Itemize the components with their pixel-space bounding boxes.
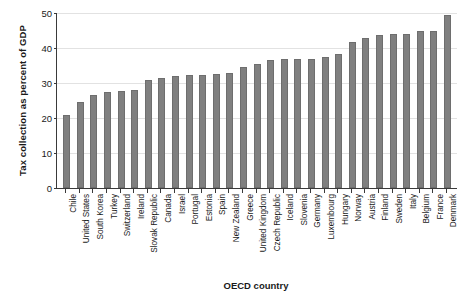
x-label-wrap: Austria bbox=[358, 194, 372, 272]
x-tick-mark bbox=[147, 189, 148, 193]
x-label-wrap: Belgium bbox=[412, 194, 426, 272]
bar-item bbox=[305, 13, 319, 188]
bar-item bbox=[210, 13, 224, 188]
bar bbox=[430, 31, 437, 188]
bar bbox=[403, 34, 410, 188]
bar bbox=[254, 64, 261, 188]
x-tick-wrap bbox=[344, 189, 358, 193]
x-label-wrap: Norway bbox=[344, 194, 358, 272]
x-label-wrap: Sweden bbox=[385, 194, 399, 272]
bar-item bbox=[250, 13, 264, 188]
x-tick-mark bbox=[174, 189, 175, 193]
x-tick-wrap bbox=[317, 189, 331, 193]
bar bbox=[444, 15, 451, 188]
x-label-wrap: Luxembourg bbox=[317, 194, 331, 272]
x-tick-mark bbox=[283, 189, 284, 193]
bar-item bbox=[386, 13, 400, 188]
bar-item bbox=[237, 13, 251, 188]
bar-item bbox=[373, 13, 387, 188]
x-tick-mark bbox=[201, 189, 202, 193]
bar bbox=[240, 67, 247, 188]
x-tick-mark bbox=[446, 189, 447, 193]
x-tick-mark bbox=[310, 189, 311, 193]
x-tick-mark bbox=[378, 189, 379, 193]
x-tick-wrap bbox=[181, 189, 195, 193]
bar-item bbox=[155, 13, 169, 188]
bar-item bbox=[264, 13, 278, 188]
bar-item bbox=[278, 13, 292, 188]
bar-item bbox=[332, 13, 346, 188]
x-tick-wrap bbox=[290, 189, 304, 193]
bar-item bbox=[400, 13, 414, 188]
x-tick-mark bbox=[351, 189, 352, 193]
x-label-wrap: France bbox=[426, 194, 440, 272]
y-tick-label: 0 bbox=[18, 183, 57, 194]
x-tick-wrap bbox=[113, 189, 127, 193]
x-label-wrap: Greece bbox=[236, 194, 250, 272]
x-tick-wrap bbox=[263, 189, 277, 193]
bar bbox=[335, 54, 342, 188]
x-label-wrap: Slovenia bbox=[290, 194, 304, 272]
x-label-wrap: Germany bbox=[304, 194, 318, 272]
bar-item bbox=[223, 13, 237, 188]
x-label-wrap: Slovak Republic bbox=[141, 194, 155, 272]
x-tick-wrap bbox=[209, 189, 223, 193]
x-tick-wrap bbox=[168, 189, 182, 193]
x-tick-wrap bbox=[127, 189, 141, 193]
bar-item bbox=[318, 13, 332, 188]
x-label-wrap: United States bbox=[73, 194, 87, 272]
x-label-wrap: Canada bbox=[154, 194, 168, 272]
bar-item bbox=[441, 13, 455, 188]
x-tick-mark bbox=[160, 189, 161, 193]
bar bbox=[104, 92, 111, 188]
x-tick-wrap bbox=[154, 189, 168, 193]
x-tick-label: Denmark bbox=[450, 194, 458, 227]
x-tick-mark bbox=[65, 189, 66, 193]
x-tick-wrap bbox=[236, 189, 250, 193]
x-tick-mark bbox=[337, 189, 338, 193]
x-tick-wrap bbox=[73, 189, 87, 193]
x-tick-mark bbox=[228, 189, 229, 193]
bar bbox=[362, 38, 369, 189]
y-tick-label: 10 bbox=[18, 148, 57, 159]
bar bbox=[322, 57, 329, 188]
y-tick-label: 30 bbox=[18, 78, 57, 89]
bar bbox=[281, 59, 288, 188]
x-tick-wrap bbox=[195, 189, 209, 193]
bar bbox=[63, 115, 70, 189]
x-label-wrap: New Zealand bbox=[222, 194, 236, 272]
x-label-wrap: Portugal bbox=[181, 194, 195, 272]
y-tick-label: 40 bbox=[18, 43, 57, 54]
x-tick-wrap bbox=[86, 189, 100, 193]
bar bbox=[77, 102, 84, 188]
bar-item bbox=[413, 13, 427, 188]
x-tick-wrap bbox=[372, 189, 386, 193]
x-tick-mark bbox=[419, 189, 420, 193]
x-label-wrap: Hungary bbox=[331, 194, 345, 272]
x-tick-wrap bbox=[249, 189, 263, 193]
bar bbox=[199, 75, 206, 188]
bar-item bbox=[182, 13, 196, 188]
x-label-wrap: Italy bbox=[399, 194, 413, 272]
x-axis-tickmarks bbox=[56, 189, 456, 193]
bar-item bbox=[60, 13, 74, 188]
bar bbox=[213, 74, 220, 188]
bar bbox=[118, 91, 125, 188]
x-axis-ticklabels: ChileUnited StatesSouth KoreaTurkeySwitz… bbox=[56, 194, 456, 272]
x-label-wrap: Ireland bbox=[127, 194, 141, 272]
y-tick-label: 20 bbox=[18, 113, 57, 124]
bar-item bbox=[142, 13, 156, 188]
y-axis-title: Tax collection as percent of GDP bbox=[17, 6, 28, 196]
x-tick-mark bbox=[364, 189, 365, 193]
x-tick-mark bbox=[296, 189, 297, 193]
x-label-wrap: Israel bbox=[168, 194, 182, 272]
bar bbox=[308, 59, 315, 189]
x-tick-wrap bbox=[222, 189, 236, 193]
x-tick-mark bbox=[188, 189, 189, 193]
x-label-wrap: Switzerland bbox=[113, 194, 127, 272]
x-label-wrap: United Kingdom bbox=[249, 194, 263, 272]
x-tick-wrap bbox=[141, 189, 155, 193]
x-tick-mark bbox=[324, 189, 325, 193]
bar bbox=[131, 90, 138, 188]
bar-item bbox=[169, 13, 183, 188]
